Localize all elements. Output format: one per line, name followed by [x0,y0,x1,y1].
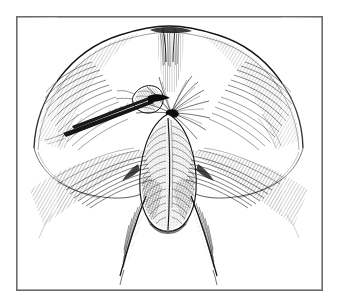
instrument-hinge [149,97,153,101]
left-edge-veil [17,17,57,289]
right-edge-veil [282,17,322,289]
surgical-illustration [0,0,337,305]
illustration-figure: Black and white pen-and-ink surgical ill… [0,0,337,305]
